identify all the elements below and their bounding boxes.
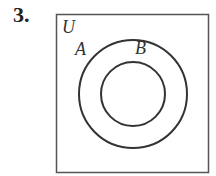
set-a-circle [79,40,187,148]
universal-set-label: U [62,17,76,37]
venn-diagram: U A B [0,0,216,176]
set-b-label: B [135,38,146,58]
set-b-circle [101,62,165,126]
set-a-label: A [74,39,87,59]
